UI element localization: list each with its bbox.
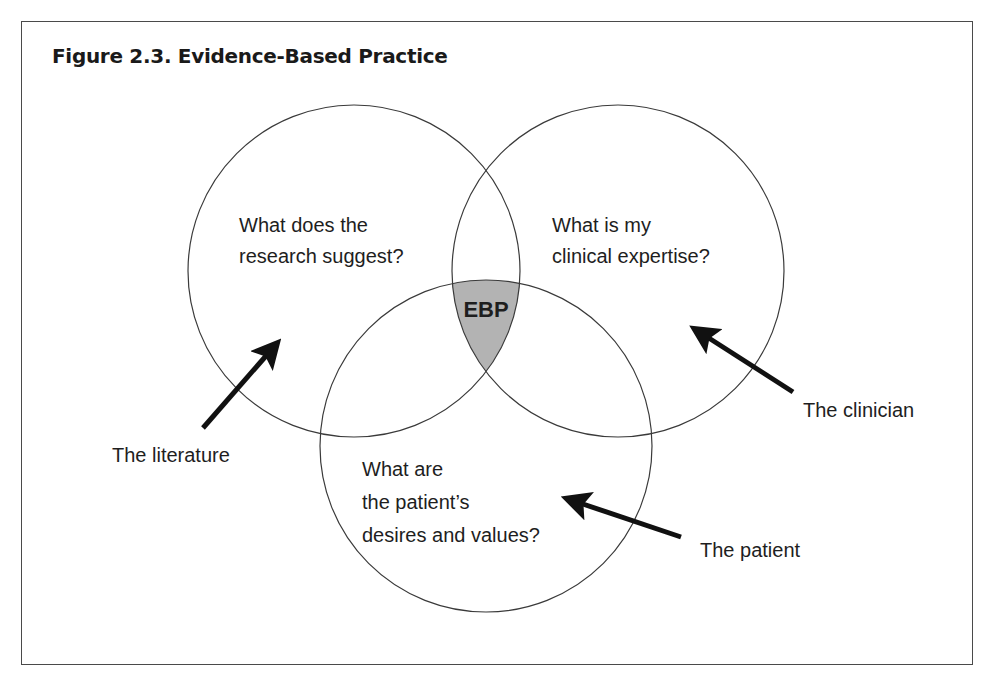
literature-arrow-icon	[203, 349, 272, 428]
research-question-line-2: research suggest?	[239, 245, 404, 267]
literature-label: The literature	[112, 444, 230, 466]
clinical-question-line-2: clinical expertise?	[552, 245, 710, 267]
research-question-line-1: What does the	[239, 214, 368, 236]
ebp-intersection-region	[320, 280, 652, 612]
ebp-label: EBP	[463, 297, 508, 322]
patient-arrow-icon	[574, 501, 681, 537]
patient-question-line-2: the patient’s	[362, 491, 470, 513]
ebp-shaded-fill	[320, 280, 652, 612]
patient-label: The patient	[700, 539, 801, 561]
patient-question-line-3: desires and values?	[362, 524, 540, 546]
patient-question-line-1: What are	[362, 458, 443, 480]
clinical-question-line-1: What is my	[552, 214, 651, 236]
venn-diagram: What does the research suggest? What is …	[0, 0, 995, 682]
clinician-label: The clinician	[803, 399, 914, 421]
clinician-arrow-icon	[701, 333, 793, 392]
clinical-expertise-circle	[452, 105, 784, 437]
